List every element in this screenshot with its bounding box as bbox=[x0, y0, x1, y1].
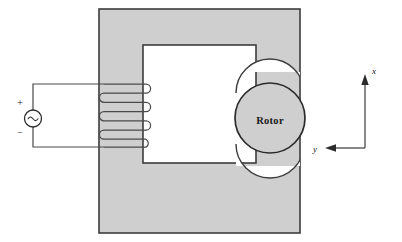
figure-magnetic-core-rotor: Rotor + − bbox=[0, 0, 402, 242]
y-axis-arrowhead bbox=[325, 144, 336, 151]
rotor: Rotor bbox=[235, 83, 305, 153]
x-axis-label: x bbox=[371, 66, 376, 76]
polarity-plus-label: + bbox=[17, 97, 23, 108]
polarity-minus-label: − bbox=[17, 127, 23, 138]
wire-bottom-lead bbox=[33, 126, 104, 147]
source-wiring bbox=[33, 84, 104, 147]
y-axis-label: y bbox=[312, 144, 317, 154]
ac-voltage-source: + − bbox=[17, 97, 41, 138]
rotor-label: Rotor bbox=[256, 115, 284, 126]
wire-top-lead bbox=[33, 84, 104, 111]
x-axis-arrowhead bbox=[361, 74, 368, 85]
schematic-canvas: Rotor + − bbox=[0, 0, 402, 242]
coordinate-axes: x y bbox=[312, 66, 376, 154]
